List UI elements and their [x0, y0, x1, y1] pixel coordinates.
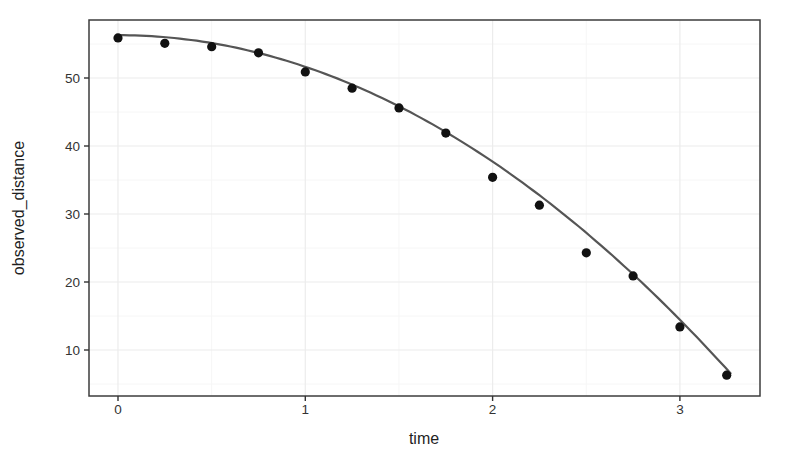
chart-figure: 01231020304050 time observed_distance	[0, 0, 796, 457]
x-axis-title: time	[409, 430, 439, 447]
minor-gridlines-group	[89, 20, 760, 396]
data-points-group	[113, 33, 731, 380]
data-point	[535, 201, 544, 210]
scatter-plot: 01231020304050 time observed_distance	[0, 0, 796, 457]
data-point	[675, 322, 684, 331]
y-axis-title: observed_distance	[10, 141, 28, 275]
data-point	[348, 84, 357, 93]
y-tick-label: 20	[65, 275, 80, 290]
major-gridlines-group	[89, 20, 760, 396]
data-point	[722, 371, 731, 380]
data-point	[113, 33, 122, 42]
data-point	[254, 48, 263, 57]
data-point	[488, 173, 497, 182]
x-tick-label: 3	[676, 402, 684, 417]
y-tick-label: 50	[65, 71, 80, 86]
axis-ticks-group	[84, 78, 680, 401]
data-point	[394, 103, 403, 112]
panel-border	[89, 20, 760, 396]
y-tick-label: 40	[65, 139, 80, 154]
fitted-curve	[118, 35, 731, 373]
y-tick-label: 30	[65, 207, 80, 222]
data-point	[582, 248, 591, 257]
y-tick-label: 10	[65, 343, 80, 358]
data-point	[629, 271, 638, 280]
data-point	[441, 129, 450, 138]
data-point	[160, 39, 169, 48]
axis-tick-labels-group: 01231020304050	[65, 71, 684, 418]
data-point	[207, 42, 216, 51]
x-tick-label: 0	[114, 402, 122, 417]
x-tick-label: 1	[302, 402, 310, 417]
x-tick-label: 2	[489, 402, 497, 417]
data-point	[301, 67, 310, 76]
